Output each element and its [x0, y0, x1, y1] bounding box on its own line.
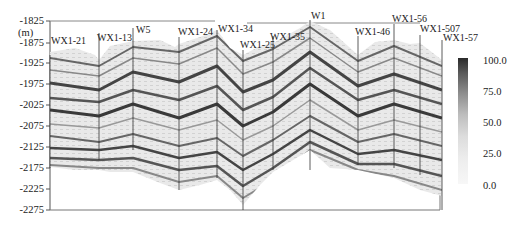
well-label-w5: W5: [136, 25, 150, 35]
well-label-wx1-34: WX1-34: [218, 24, 253, 34]
colorbar-tick: 75.0: [483, 86, 501, 97]
well-label-wx1-13: WX1-13: [97, 33, 132, 43]
well-correlation-figure: -1825 (m) -1875 -1925 -1975 -2025 -2075 …: [0, 0, 509, 225]
colorbar-tick: 100.0: [483, 55, 507, 66]
colorbar-tick: 25.0: [483, 148, 501, 159]
well-label-wx1-21: WX1-21: [51, 36, 86, 46]
well-label-wx1-57: WX1-57: [443, 33, 478, 43]
well-label-w1: W1: [311, 11, 325, 21]
well-label-wx1-24: WX1-24: [178, 27, 213, 37]
well-label-wx1-46: WX1-46: [355, 27, 390, 37]
colorbar: [458, 58, 468, 184]
colorbar-tick: 50.0: [483, 117, 501, 128]
colorbar-tick: 0.0: [483, 180, 496, 191]
well-label-wx1-35: WX1-35: [270, 32, 305, 42]
